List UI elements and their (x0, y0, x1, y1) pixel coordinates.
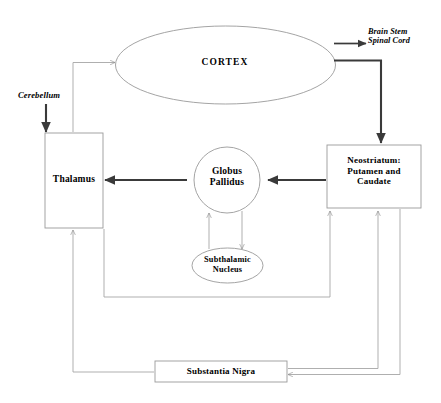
edge-neostriatum-to-substantia-nigra (288, 209, 400, 375)
basal-ganglia-diagram: CORTEX Thalamus Globus Pallidus Subthala… (0, 0, 441, 403)
edge-thalamus-to-neostriatum (104, 211, 330, 297)
edge-substantia-nigra-to-neostriatum (288, 211, 378, 369)
diagram-canvas (0, 0, 441, 403)
external-label-cerebellum: Cerebellum (18, 91, 88, 101)
node-neostriatum (327, 145, 421, 208)
node-subthalamic-nucleus (192, 248, 263, 283)
external-label-brain-stem: Brain Stem Spinal Cord (368, 27, 440, 45)
edge-substantia-nigra-to-thalamus (73, 230, 154, 372)
brain-stem-label-line-1: Brain Stem (368, 27, 440, 36)
edge-cortex-to-neostriatum (334, 61, 381, 144)
brain-stem-label-line-2: Spinal Cord (368, 36, 440, 45)
node-globus-pallidus (194, 147, 260, 213)
node-substantia-nigra (155, 361, 287, 382)
node-cortex (116, 26, 336, 104)
node-thalamus (45, 133, 103, 228)
